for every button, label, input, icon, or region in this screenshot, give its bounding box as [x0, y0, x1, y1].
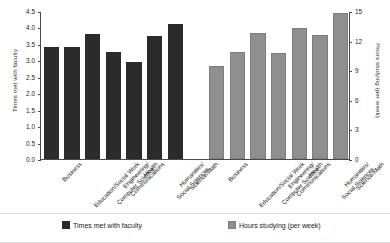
- x-axis-label: Business: [62, 161, 84, 183]
- y-axis-right-title: Hours studying (per week): [375, 36, 382, 126]
- bar-times-met-with-faculty: [168, 24, 183, 159]
- axis-tick-mark: [38, 45, 41, 46]
- y-axis-right-ticks: 03691215: [352, 0, 374, 160]
- x-axis-category-labels: BusinessEducation/Social WorkEngineering…: [40, 161, 350, 213]
- bar-hours-studying: [209, 66, 224, 159]
- bar-chart: Times met with faculty Hours studying (p…: [0, 0, 390, 243]
- bar-times-met-with-faculty: [126, 62, 141, 159]
- legend-item-hours-studying: Hours studying (per week): [228, 221, 321, 229]
- axis-tick-label: 15: [355, 9, 362, 15]
- axis-tick-mark: [349, 42, 352, 43]
- bar-times-met-with-faculty: [44, 47, 59, 159]
- axis-tick-label: 1.0: [26, 124, 35, 130]
- axis-tick-label: 0.0: [26, 157, 35, 163]
- axis-tick-label: 9: [355, 68, 359, 74]
- axis-tick-label: 6: [355, 98, 359, 104]
- legend-label: Times met with faculty: [73, 222, 142, 229]
- x-axis-label: Business: [227, 161, 249, 183]
- bar-times-met-with-faculty: [147, 36, 162, 159]
- bar-hours-studying: [250, 33, 265, 159]
- axis-tick-label: 3.0: [26, 58, 35, 64]
- bar-hours-studying: [333, 13, 348, 159]
- bar-hours-studying: [292, 28, 307, 159]
- bars-container: [41, 12, 349, 159]
- plot-area: [40, 12, 350, 160]
- bar-hours-studying: [271, 53, 286, 159]
- axis-tick-mark: [38, 12, 41, 13]
- axis-tick-mark: [38, 94, 41, 95]
- bar-times-met-with-faculty: [85, 34, 100, 159]
- axis-tick-mark: [38, 78, 41, 79]
- axis-tick-label: 0: [355, 157, 359, 163]
- axis-tick-mark: [38, 28, 41, 29]
- axis-tick-mark: [349, 130, 352, 131]
- bar-hours-studying: [312, 35, 327, 159]
- axis-tick-label: 4.0: [26, 25, 35, 31]
- axis-tick-mark: [38, 127, 41, 128]
- axis-tick-label: 2.5: [26, 75, 35, 81]
- axis-tick-label: 3.5: [26, 42, 35, 48]
- legend-item-times-met: Times met with faculty: [62, 221, 142, 229]
- legend-label: Hours studying (per week): [239, 222, 321, 229]
- bar-times-met-with-faculty: [64, 47, 79, 159]
- axis-tick-mark: [38, 61, 41, 62]
- axis-tick-label: 4.5: [26, 9, 35, 15]
- axis-tick-label: 3: [355, 127, 359, 133]
- legend-swatch-icon: [228, 221, 236, 229]
- legend: Times met with faculty Hours studying (p…: [0, 213, 390, 243]
- axis-tick-label: 1.5: [26, 107, 35, 113]
- axis-tick-mark: [349, 71, 352, 72]
- axis-tick-mark: [38, 144, 41, 145]
- y-axis-left-ticks: 0.00.51.01.52.02.53.03.54.04.5: [16, 0, 38, 160]
- bar-hours-studying: [230, 52, 245, 159]
- axis-tick-label: 12: [355, 38, 362, 44]
- bar-times-met-with-faculty: [106, 52, 121, 159]
- axis-tick-mark: [349, 101, 352, 102]
- axis-tick-label: 2.0: [26, 91, 35, 97]
- axis-tick-mark: [38, 111, 41, 112]
- axis-tick-mark: [349, 12, 352, 13]
- legend-swatch-icon: [62, 221, 70, 229]
- axis-tick-label: 0.5: [26, 140, 35, 146]
